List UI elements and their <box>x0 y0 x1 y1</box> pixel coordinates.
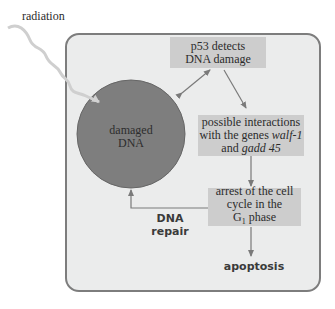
text: G <box>233 210 242 224</box>
apoptosis-label: apoptosis <box>215 260 293 273</box>
damaged-dna-label: damaged DNA <box>99 124 163 150</box>
gene-name: walf-1 <box>272 128 303 142</box>
cell-cycle-arrest-box: arrest of the cell cycle in the G1 phase <box>208 188 301 226</box>
arrow-icon <box>224 70 246 108</box>
p53-detects-box: p53 detects DNA damage <box>170 37 266 68</box>
box-line: G1 phase <box>208 211 301 228</box>
label-line: DNA <box>140 212 200 225</box>
double-arrow-icon <box>182 70 210 93</box>
gene-name: gadd 45 <box>242 141 281 155</box>
label-line: repair <box>140 225 200 238</box>
possible-interactions-box: possible interactions with the genes wal… <box>198 115 304 156</box>
box-line: and gadd 45 <box>198 142 304 155</box>
radiation-label: radiation <box>22 9 65 24</box>
box-line: DNA damage <box>170 53 266 66</box>
text: and <box>221 141 241 155</box>
text: phase <box>246 210 276 224</box>
dna-repair-label: DNA repair <box>140 212 200 238</box>
repair-arrow-icon <box>131 190 208 208</box>
text: with the genes <box>200 128 272 142</box>
radiation-wave-icon <box>8 26 99 102</box>
circle-label-line: DNA <box>99 137 163 150</box>
box-line: p53 detects <box>170 40 266 53</box>
